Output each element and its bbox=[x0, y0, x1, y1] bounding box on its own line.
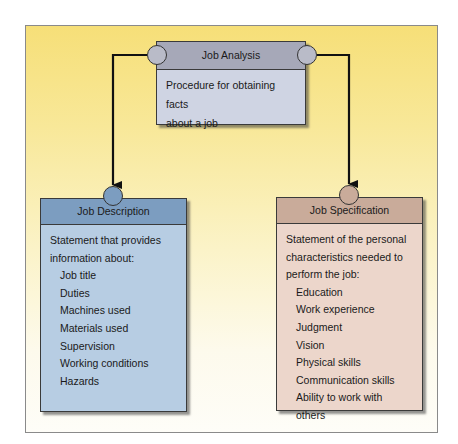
list-item: Materials used bbox=[50, 320, 177, 338]
job-analysis-box: Job Analysis Procedure for obtaining fac… bbox=[156, 41, 306, 125]
job-specification-box: Job Specification Statement of the perso… bbox=[276, 197, 423, 411]
list-item: Judgment bbox=[286, 319, 413, 337]
job-specification-body: Statement of the personal characteristic… bbox=[277, 224, 422, 425]
list-item: Communication skills bbox=[286, 372, 413, 390]
list-item: Duties bbox=[50, 285, 177, 303]
job-analysis-title: Job Analysis bbox=[157, 42, 305, 70]
list-item: Job title bbox=[50, 267, 177, 285]
list-item: Working conditions bbox=[50, 355, 177, 373]
list-item: Supervision bbox=[50, 338, 177, 356]
job-analysis-description: Procedure for obtaining facts about a jo… bbox=[157, 70, 305, 133]
job-description-body: Statement that provides information abou… bbox=[41, 225, 186, 390]
description-line: Procedure for obtaining facts bbox=[166, 76, 296, 114]
intro-line: perform the job: bbox=[286, 266, 413, 284]
intro-line: Statement of the personal bbox=[286, 231, 413, 249]
list-item: Machines used bbox=[50, 302, 177, 320]
list-item: Ability to work with others bbox=[286, 389, 413, 424]
connector-node-specification bbox=[339, 185, 359, 205]
arrow-to-job-specification bbox=[317, 55, 349, 184]
intro-line: information about: bbox=[50, 250, 177, 268]
connector-node-description bbox=[103, 186, 123, 206]
list-item: Education bbox=[286, 284, 413, 302]
list-item: Hazards bbox=[50, 373, 177, 391]
arrow-to-job-description bbox=[113, 55, 147, 185]
description-line: about a job bbox=[166, 114, 296, 133]
intro-line: characteristics needed to bbox=[286, 249, 413, 267]
job-description-box: Job Description Statement that provides … bbox=[40, 198, 187, 412]
list-item: Physical skills bbox=[286, 354, 413, 372]
connector-node-right bbox=[297, 45, 317, 65]
list-item: Vision bbox=[286, 337, 413, 355]
list-item: Work experience bbox=[286, 301, 413, 319]
intro-line: Statement that provides bbox=[50, 232, 177, 250]
connector-node-left bbox=[147, 45, 167, 65]
